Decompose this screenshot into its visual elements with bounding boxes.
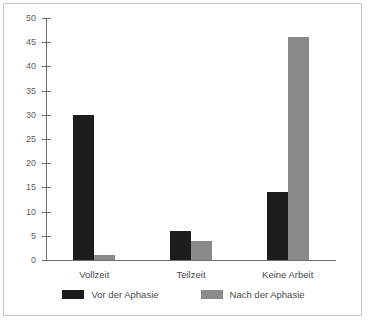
y-tick-0: 0 <box>42 260 51 261</box>
x-axis-line <box>46 260 336 261</box>
y-tick-15: 15 <box>42 187 51 188</box>
y-tick-label-25: 25 <box>26 135 36 144</box>
legend-entry-vor-der-aphasie: Vor der Aphasie <box>62 289 158 300</box>
y-tick-label-0: 0 <box>31 256 36 265</box>
bar-keine-arbeit-vor-der-aphasie <box>267 192 288 260</box>
y-tick-20: 20 <box>42 163 51 164</box>
y-tick-label-20: 20 <box>26 159 36 168</box>
bar-teilzeit-vor-der-aphasie <box>170 231 191 260</box>
y-tick-label-15: 15 <box>26 183 36 192</box>
y-tick-label-30: 30 <box>26 110 36 119</box>
y-tick-30: 30 <box>42 115 51 116</box>
bar-vollzeit-nach-der-aphasie <box>94 255 115 260</box>
category-label-keine-arbeit: Keine Arbeit <box>262 269 313 280</box>
bar-teilzeit-nach-der-aphasie <box>191 241 212 260</box>
y-tick-label-5: 5 <box>31 231 36 240</box>
y-tick-label-35: 35 <box>26 86 36 95</box>
category-label-teilzeit: Teilzeit <box>176 269 205 280</box>
y-tick-35: 35 <box>42 91 51 92</box>
y-tick-10: 10 <box>42 212 51 213</box>
chart-frame: 05101520253035404550 VollzeitTeilzeitKei… <box>3 3 362 316</box>
legend-swatch-icon-0 <box>62 290 84 299</box>
y-tick-label-10: 10 <box>26 207 36 216</box>
legend-label-0: Vor der Aphasie <box>91 289 158 300</box>
bar-keine-arbeit-nach-der-aphasie <box>288 37 309 260</box>
y-tick-40: 40 <box>42 66 51 67</box>
y-tick-5: 5 <box>42 236 51 237</box>
y-tick-label-45: 45 <box>26 38 36 47</box>
y-tick-45: 45 <box>42 42 51 43</box>
legend-swatch-icon-1 <box>201 290 223 299</box>
legend-entry-nach-der-aphasie: Nach der Aphasie <box>201 289 305 300</box>
y-tick-label-40: 40 <box>26 62 36 71</box>
legend-label-1: Nach der Aphasie <box>230 289 305 300</box>
chart-legend: Vor der AphasieNach der Aphasie <box>4 289 363 300</box>
bar-vollzeit-vor-der-aphasie <box>73 115 94 260</box>
y-tick-label-50: 50 <box>26 14 36 23</box>
y-tick-50: 50 <box>42 18 51 19</box>
plot-area: 05101520253035404550 VollzeitTeilzeitKei… <box>46 18 336 261</box>
category-label-vollzeit: Vollzeit <box>79 269 109 280</box>
y-tick-25: 25 <box>42 139 51 140</box>
